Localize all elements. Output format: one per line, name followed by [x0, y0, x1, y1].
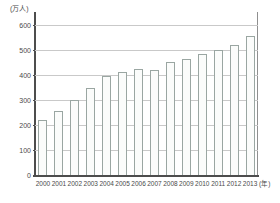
y-axis-tick-label: 100 [19, 147, 31, 154]
y-axis-ticks: 0100200300400500600 [0, 25, 35, 175]
bar [118, 72, 127, 175]
bar [182, 59, 191, 175]
x-axis-tick-labels: 2000200120022003200420052006200720082009… [35, 179, 258, 191]
y-axis-tick-label: 200 [19, 122, 31, 129]
y-axis-tick-label: 0 [27, 172, 31, 179]
bar [70, 100, 79, 175]
bar [230, 45, 239, 175]
bar [102, 76, 111, 175]
y-axis-tick-label: 500 [19, 47, 31, 54]
bar [166, 62, 175, 175]
bar-chart: (万人) 0100200300400500600 200020012002200… [0, 0, 280, 203]
bar [214, 50, 223, 175]
bar [38, 120, 47, 175]
bar-series [35, 25, 258, 175]
bar [54, 111, 63, 175]
x-axis-line [33, 175, 259, 177]
bar [86, 88, 95, 175]
bar [134, 69, 143, 175]
x-axis-unit-label: (年) [259, 179, 270, 188]
bar [150, 70, 159, 175]
plot-area: 0100200300400500600 [35, 25, 258, 175]
y-axis-unit-label: (万人) [10, 4, 29, 13]
y-axis-tick-label: 400 [19, 72, 31, 79]
y-axis-tick-label: 300 [19, 97, 31, 104]
bar [246, 36, 255, 175]
bar [198, 54, 207, 175]
y-axis-tick-label: 600 [19, 22, 31, 29]
y-axis-tick-mark [33, 175, 36, 176]
